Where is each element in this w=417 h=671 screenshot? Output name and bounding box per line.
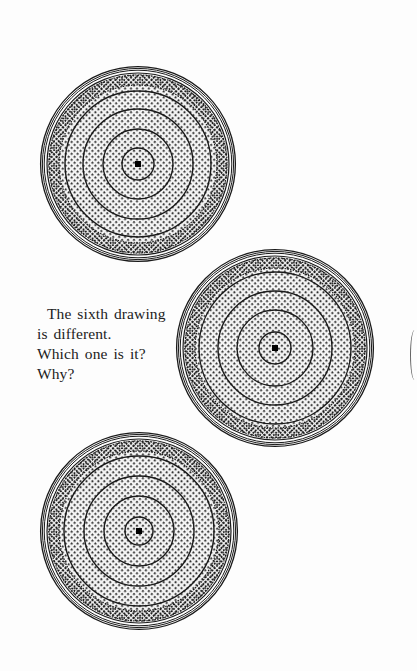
concentric-circle-drawing-1: [36, 62, 240, 266]
caption-line-2: is different.: [37, 324, 165, 344]
caption-line-1: The sixth drawing: [37, 304, 165, 324]
page-edge-arc: [410, 330, 417, 380]
concentric-circle-drawing-2: [172, 245, 378, 451]
book-page: The sixth drawing is different. Which on…: [0, 0, 417, 671]
puzzle-caption: The sixth drawing is different. Which on…: [37, 304, 165, 384]
caption-line-4: Why?: [37, 364, 165, 384]
caption-line-3: Which one is it?: [37, 344, 165, 364]
concentric-circle-drawing-3: [36, 428, 242, 634]
